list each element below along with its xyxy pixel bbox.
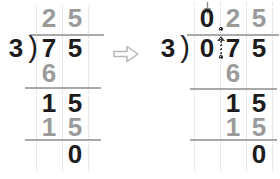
dividend-digit: 0	[194, 33, 220, 63]
quotient-digit: 2	[220, 3, 246, 33]
dividend-digit: 5	[246, 33, 272, 63]
final-remainder-digit: 0	[246, 139, 272, 169]
figure-decimal-division: 3)025075615150	[0, 0, 280, 179]
subtrahend-digit: 1	[220, 112, 246, 142]
quotient-zero-digit: 0	[194, 3, 220, 33]
product-digit: 6	[220, 58, 246, 88]
column-guide-line	[272, 2, 273, 171]
quotient-digit: 5	[246, 3, 272, 33]
subtrahend-digit: 5	[246, 112, 272, 142]
long-division-lesson-canvas: 3)2575615150 3)025075615150	[0, 0, 280, 179]
